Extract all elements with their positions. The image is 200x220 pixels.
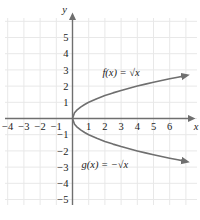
y-tick-label: −3: [57, 162, 68, 173]
y-tick-label: 3: [63, 65, 68, 76]
x-tick-label: 2: [102, 121, 107, 132]
coordinate-plane-svg: yx −4−3−2−112345654321−1−2−3−4−5 f(x) = …: [0, 0, 200, 220]
x-tick-label: 1: [86, 121, 91, 132]
x-tick-label: 3: [118, 121, 123, 132]
y-tick-label: −2: [57, 146, 68, 157]
x-tick-label: −4: [2, 121, 14, 132]
y-tick-label: −1: [57, 129, 68, 140]
function-curve: [73, 76, 186, 119]
x-tick-label: 6: [167, 121, 172, 132]
graph-figure: yx −4−3−2−112345654321−1−2−3−4−5 f(x) = …: [0, 0, 200, 220]
x-axis-label: x: [193, 121, 199, 132]
y-tick-label: 5: [63, 32, 68, 43]
y-tick-label: −5: [57, 194, 68, 205]
x-tick-label: −3: [18, 121, 29, 132]
x-tick-label: 4: [135, 121, 141, 132]
g-function-label: g(x) = −√x: [82, 159, 129, 171]
y-tick-label: 2: [63, 81, 68, 92]
y-tick-label: 1: [63, 97, 68, 108]
y-tick-label: −4: [57, 178, 69, 189]
x-tick-label: 5: [151, 121, 156, 132]
gridlines: [5, 18, 197, 205]
y-axis-label: y: [61, 4, 67, 15]
f-function-label: f(x) = √x: [102, 67, 140, 79]
x-tick-label: −2: [35, 121, 46, 132]
y-tick-label: 4: [63, 48, 69, 59]
